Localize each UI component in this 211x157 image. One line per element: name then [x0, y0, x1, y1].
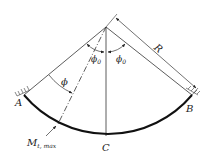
label-moment-max: Mt, max [26, 137, 57, 149]
fixed-support-A [15, 86, 30, 96]
label-phi: ϕ [61, 76, 68, 87]
R-extension-top [106, 14, 117, 27]
label-R: R [151, 41, 165, 55]
arc-beam [24, 95, 192, 134]
label-A: A [14, 97, 22, 108]
label-B: B [185, 103, 193, 114]
phi0-right-arc [108, 44, 125, 52]
arc-beam-diagram: A B C R ϕ ϕ0 ϕ0 Mt, max [0, 0, 211, 157]
label-C: C [102, 142, 110, 153]
moment-arrow [46, 126, 56, 136]
label-phi0-right: ϕ0 [116, 54, 126, 65]
label-phi0-left: ϕ0 [91, 54, 101, 65]
